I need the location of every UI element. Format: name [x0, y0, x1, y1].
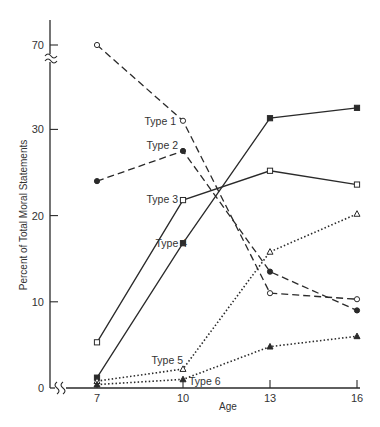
series-type-6: [94, 333, 360, 387]
series-type-4: [94, 105, 359, 380]
marker-triangle-icon: [267, 249, 273, 255]
marker-circle-icon: [354, 308, 359, 313]
marker-square-icon: [354, 105, 359, 110]
axes: 0102030707101316: [32, 20, 363, 404]
x-tick-label: 13: [264, 392, 276, 404]
series-label: Type 3: [146, 193, 178, 205]
marker-triangle-icon: [267, 343, 273, 349]
marker-circle-icon: [180, 118, 185, 123]
series-label: Type 5: [151, 354, 183, 366]
marker-square-icon: [267, 168, 272, 173]
marker-circle-icon: [180, 148, 185, 153]
x-tick-label: 10: [177, 392, 189, 404]
marker-circle-icon: [354, 297, 359, 302]
marker-circle-icon: [267, 291, 272, 296]
series-type-1: [94, 42, 359, 301]
series-line: [97, 108, 357, 378]
y-tick-label: 30: [32, 123, 44, 135]
series-label: Type 6: [189, 375, 221, 387]
series-labels: Type 1Type 2Type 3Type 4Type 5Type 6: [144, 115, 220, 387]
marker-circle-icon: [94, 179, 99, 184]
y-axis-title: Percent of Total Moral Statements: [18, 140, 29, 290]
series-type-2: [94, 148, 359, 313]
marker-square-icon: [267, 116, 272, 121]
series-label: Type 2: [146, 139, 178, 151]
x-tick-label: 7: [94, 392, 100, 404]
x-tick-label: 16: [351, 392, 363, 404]
marker-triangle-icon: [354, 211, 360, 217]
y-tick-label: 0: [38, 382, 44, 394]
marker-square-icon: [180, 197, 185, 202]
line-chart: 0102030707101316 Type 1Type 2Type 3Type …: [0, 0, 380, 427]
series-label: Type 4: [155, 237, 187, 249]
marker-circle-icon: [94, 42, 99, 47]
series-line: [97, 45, 357, 299]
marker-triangle-icon: [180, 376, 186, 382]
y-tick-label: 10: [32, 296, 44, 308]
x-axis-title: Age: [219, 401, 237, 412]
series-line: [97, 336, 357, 384]
y-axis-break-icon: [45, 54, 57, 63]
series-group: [94, 42, 360, 387]
marker-square-icon: [354, 182, 359, 187]
marker-square-icon: [94, 340, 99, 345]
series-line: [97, 214, 357, 381]
series-label: Type 1: [144, 115, 176, 127]
y-tick-label: 20: [32, 210, 44, 222]
x-axis-break-icon: [55, 382, 65, 394]
y-tick-label: 70: [32, 39, 44, 51]
marker-circle-icon: [267, 269, 272, 274]
marker-triangle-icon: [354, 333, 360, 339]
